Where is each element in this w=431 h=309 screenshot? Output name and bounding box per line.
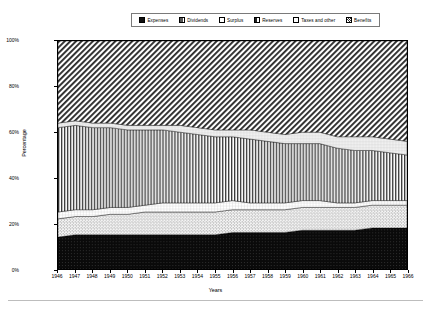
legend-item-benefits: Benefits	[346, 17, 371, 23]
stacked-area-chart: Expenses Dividends Surplus Reserves Taxe…	[0, 0, 431, 309]
y-axis-tick-label: 0%	[0, 267, 19, 273]
y-axis-tick-mark	[54, 132, 57, 133]
x-axis-tick-mark	[197, 270, 198, 273]
chart-legend: Expenses Dividends Surplus Reserves Taxe…	[131, 13, 380, 27]
legend-swatch-expenses	[139, 17, 145, 23]
legend-label-taxes-and-other: Taxes and other	[301, 18, 335, 23]
x-axis-tick-mark	[250, 270, 251, 273]
x-axis-tick-mark	[57, 270, 58, 273]
y-axis-tick-mark	[54, 86, 57, 87]
x-axis-tick-mark	[145, 270, 146, 273]
legend-item-reserves: Reserves	[254, 17, 282, 23]
x-axis-tick-mark	[355, 270, 356, 273]
area-series-svg	[58, 41, 407, 269]
y-axis-tick-mark	[54, 178, 57, 179]
legend-swatch-benefits	[346, 17, 352, 23]
x-axis-tick-mark	[408, 270, 409, 273]
legend-label-surplus: Surplus	[227, 18, 243, 23]
legend-item-surplus: Surplus	[219, 17, 243, 23]
x-axis-tick-mark	[127, 270, 128, 273]
legend-label-benefits: Benefits	[354, 18, 371, 23]
legend-item-taxes-and-other: Taxes and other	[293, 17, 335, 23]
legend-swatch-dividends	[179, 17, 185, 23]
y-axis-tick-label: 100%	[0, 37, 19, 43]
footer-rule	[8, 300, 423, 301]
legend-item-dividends: Dividends	[179, 17, 208, 23]
x-axis-tick-mark	[268, 270, 269, 273]
x-axis-tick-label: 1966	[396, 273, 420, 279]
x-axis-tick-mark	[162, 270, 163, 273]
x-axis-tick-mark	[215, 270, 216, 273]
x-axis-tick-mark	[75, 270, 76, 273]
legend-label-expenses: Expenses	[147, 18, 168, 23]
y-axis-tick-label: 60%	[0, 129, 19, 135]
y-axis-tick-label: 40%	[0, 175, 19, 181]
legend-swatch-taxes-and-other	[293, 17, 299, 23]
x-axis-tick-mark	[180, 270, 181, 273]
y-axis-tick-mark	[54, 224, 57, 225]
y-axis-tick-label: 20%	[0, 221, 19, 227]
legend-swatch-reserves	[254, 17, 260, 23]
x-axis-title: Years	[0, 287, 431, 293]
x-axis-tick-mark	[233, 270, 234, 273]
legend-label-dividends: Dividends	[187, 18, 208, 23]
legend-swatch-surplus	[219, 17, 225, 23]
legend-label-reserves: Reserves	[262, 18, 282, 23]
x-axis-tick-mark	[92, 270, 93, 273]
x-axis-tick-mark	[110, 270, 111, 273]
x-axis-tick-mark	[390, 270, 391, 273]
x-axis-tick-mark	[373, 270, 374, 273]
legend-item-expenses: Expenses	[139, 17, 168, 23]
x-axis-tick-mark	[338, 270, 339, 273]
x-axis-tick-mark	[285, 270, 286, 273]
y-axis-tick-label: 80%	[0, 83, 19, 89]
y-axis-tick-mark	[54, 40, 57, 41]
x-axis-tick-mark	[320, 270, 321, 273]
y-axis-title: Percentage	[21, 113, 27, 173]
plot-area	[57, 40, 408, 270]
x-axis-tick-mark	[303, 270, 304, 273]
